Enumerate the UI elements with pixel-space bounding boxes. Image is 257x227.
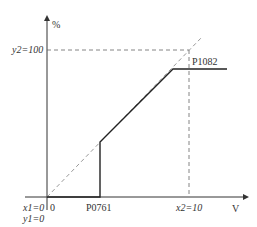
p1082-label: P1082 [192,57,218,67]
x2-label: x2=10 [176,203,202,213]
y-axis-label: % [52,20,60,30]
characteristic-curve [47,69,227,197]
zero-label: 0 [50,203,55,213]
diagram-canvas [0,0,257,227]
p0761-label: P0761 [86,203,112,213]
x-axis-label: V [232,204,239,214]
origin-x-label: x1=0 [23,203,44,213]
origin-y-label: y1=0 [23,214,44,224]
y2-label: y2=100 [12,45,43,55]
